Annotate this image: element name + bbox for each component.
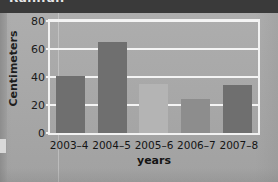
bar-slot xyxy=(92,21,134,133)
bar-slot xyxy=(216,21,258,133)
bar-series xyxy=(50,21,258,133)
x-tick-label: 2003–4 xyxy=(48,139,90,151)
bar xyxy=(223,85,252,133)
bar-slot xyxy=(50,21,92,133)
x-tick-label: 2006–7 xyxy=(175,139,217,151)
bar xyxy=(98,42,127,133)
y-tick-label: 60 xyxy=(31,43,45,56)
y-axis-label: Centimeters xyxy=(7,29,20,109)
y-tick-label: 40 xyxy=(31,71,45,84)
bar xyxy=(181,99,210,133)
x-tick-label: 2005–6 xyxy=(133,139,175,151)
x-tick-label: 2004–5 xyxy=(90,139,132,151)
scan-bottom-shadow xyxy=(0,168,278,182)
y-tick-label: 0 xyxy=(38,127,45,140)
y-tick-label: 20 xyxy=(31,99,45,112)
x-tick-label: 2007–8 xyxy=(218,139,260,151)
plot-area: 020406080 xyxy=(48,19,260,135)
bar-slot xyxy=(133,21,175,133)
bar xyxy=(139,84,168,133)
y-tick-label: 80 xyxy=(31,15,45,28)
bar-slot xyxy=(175,21,217,133)
bar xyxy=(56,76,85,133)
header-title: Rainfall xyxy=(9,0,65,5)
header-band: Rainfall xyxy=(0,0,278,13)
bar-chart: Centimeters 020406080 2003–42004–52005–6… xyxy=(0,13,278,182)
x-axis-label: years xyxy=(48,154,260,167)
